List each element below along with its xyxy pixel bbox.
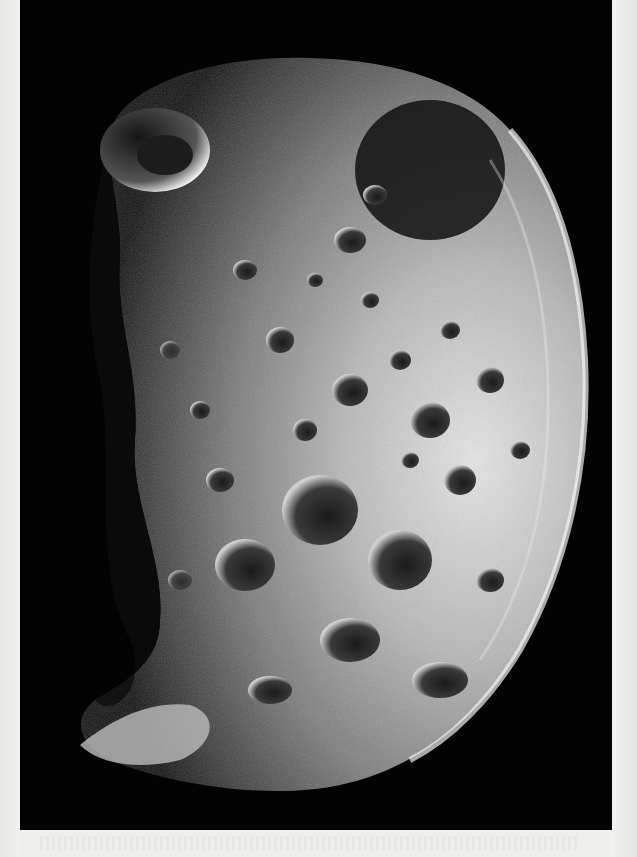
page-margin-left — [0, 0, 20, 857]
print-bleed-through — [40, 836, 580, 850]
moon-illustration — [20, 0, 612, 830]
moon-photograph — [20, 0, 612, 830]
page-margin-right — [611, 0, 637, 857]
